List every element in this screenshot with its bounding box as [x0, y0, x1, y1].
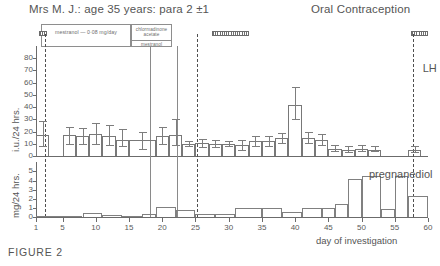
x-tick [162, 218, 163, 222]
pregnanediol-bar [322, 208, 335, 217]
x-tick-label: 10 [84, 223, 108, 232]
lower-y-axis-label: mg/24 hrs. [10, 173, 21, 218]
pregnanediol-bar [102, 215, 122, 217]
error-bar-cap-lower [371, 151, 379, 152]
x-tick-label: 25 [183, 223, 207, 232]
pregnanediol-bar [262, 208, 282, 217]
upper-y-tick-label: 50 [15, 90, 33, 99]
error-bar-cap-upper [252, 136, 260, 137]
error-bar [202, 139, 203, 148]
lh-annotation: LH [423, 62, 437, 74]
error-bar-cap-upper [292, 87, 300, 88]
pregnanediol-bar [381, 209, 394, 217]
upper-y-tick [33, 83, 36, 84]
error-bar [215, 140, 216, 147]
upper-y-tick [33, 95, 36, 96]
error-bar [255, 136, 256, 146]
x-tick [395, 218, 396, 222]
pregnanediol-bar [36, 216, 63, 217]
error-bar-cap-upper [199, 139, 207, 140]
upper-x-axis [36, 156, 428, 157]
error-bar-cap-upper [92, 123, 100, 124]
error-bar-cap-lower [358, 151, 366, 152]
x-tick-label: 40 [283, 223, 307, 232]
error-bar [269, 136, 270, 146]
x-tick [129, 218, 130, 222]
error-bar-cap-upper [345, 146, 353, 147]
treatment-label-chlormadinone-line1: chlormadinone [132, 27, 171, 32]
figure-caption: FIGURE 2 [8, 246, 63, 258]
error-bar-cap-upper [139, 132, 147, 133]
event-line-day18 [150, 46, 151, 217]
error-bar-cap-lower [92, 144, 100, 145]
error-bar [109, 125, 110, 145]
x-tick-label: 15 [117, 223, 141, 232]
x-tick-label: 60 [416, 223, 440, 232]
lower-y-tick [33, 208, 36, 209]
pregnanediol-bar [122, 216, 142, 217]
pregnanediol-bar [83, 213, 103, 217]
error-bar [83, 128, 84, 144]
upper-y-tick [33, 70, 36, 71]
treatment-label-chlormadinone-line3: mestranol [132, 40, 171, 47]
error-bar-cap-lower [212, 147, 220, 148]
upper-y-tick-label: 0 [15, 151, 33, 160]
error-bar-cap-upper [212, 140, 220, 141]
event-line-day2 [45, 34, 46, 217]
error-bar-cap-upper [39, 121, 47, 122]
lower-y-tick [33, 171, 36, 172]
treatment-box-mestranol: mestranol — 0·08 mg/day [41, 24, 131, 47]
x-axis-label: day of investigation [316, 235, 397, 246]
x-tick [63, 218, 64, 222]
treatment-label-chlormadinone-line2: acetate [132, 32, 171, 37]
upper-y-tick-label: 80 [15, 53, 33, 62]
x-tick-label: 55 [383, 223, 407, 232]
upper-y-tick [33, 107, 36, 108]
pregnanediol-bar [362, 176, 382, 217]
error-bar-cap-lower [238, 150, 246, 151]
error-bar-cap-upper [225, 141, 233, 142]
error-bar [176, 119, 177, 145]
error-bar-cap-lower [278, 143, 286, 144]
pregnanediol-bar [395, 176, 408, 217]
x-tick [195, 218, 196, 222]
error-bar-cap-upper [318, 134, 326, 135]
error-bar-cap-upper [185, 141, 193, 142]
upper-y-axis-label: i.u./24 hrs. [10, 108, 21, 152]
lower-y-tick [33, 181, 36, 182]
error-bar-cap-upper [305, 132, 313, 133]
error-bar-cap-lower [318, 145, 326, 146]
pregnanediol-bar [335, 204, 348, 217]
pregnanediol-bar [176, 210, 196, 217]
error-bar-cap-lower [331, 151, 339, 152]
error-bar-cap-lower [79, 144, 87, 145]
pregnanediol-bar [235, 208, 262, 217]
pregnanediol-annotation: pregnanediol [369, 168, 433, 180]
page-title: Mrs M. J.: age 35 years: para 2 ±1 [29, 3, 209, 15]
x-tick [262, 218, 263, 222]
pregnanediol-bar [156, 207, 176, 217]
error-bar-cap-lower [411, 152, 419, 153]
x-tick-label: 20 [150, 223, 174, 232]
x-tick [362, 218, 363, 222]
menses-marker-2 [212, 31, 249, 36]
error-bar-cap-lower [106, 145, 114, 146]
regimen-title: Oral Contraception [311, 3, 410, 15]
x-tick-label: 5 [51, 223, 75, 232]
error-bar-cap-upper [358, 145, 366, 146]
x-tick [428, 218, 429, 222]
error-bar-cap-upper [265, 136, 273, 137]
figure-root: Mrs M. J.: age 35 years: para 2 ±1 Oral … [0, 0, 440, 266]
x-tick-label: 30 [217, 223, 241, 232]
error-bar [162, 127, 163, 144]
x-tick-label: 50 [350, 223, 374, 232]
x-tick-label: 35 [250, 223, 274, 232]
error-bar-cap-lower [119, 146, 127, 147]
error-bar-cap-lower [159, 144, 167, 145]
error-bar [122, 129, 123, 146]
error-bar [43, 121, 44, 147]
x-tick-label: 1 [24, 223, 48, 232]
upper-y-tick [33, 119, 36, 120]
error-bar [69, 127, 70, 144]
error-bar-cap-upper [106, 125, 114, 126]
